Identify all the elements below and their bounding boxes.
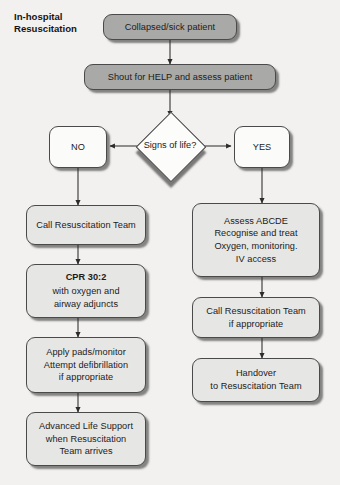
node-assess-abcde[interactable]: Assess ABCDE Recognise and treat Oxygen,… [192, 203, 320, 277]
node-cpr-30-2-line3: airway adjuncts [54, 298, 118, 311]
node-advanced-life-support[interactable]: Advanced Life Support when Resuscitation… [26, 412, 146, 466]
node-call-resuscitation-team-if-appropriate[interactable]: Call Resuscitation Team if appropriate [192, 297, 320, 338]
node-shout-for-help[interactable]: Shout for HELP and assess patient [84, 64, 276, 90]
node-assess-abcde-line1: Assess ABCDE [224, 215, 288, 228]
node-collapsed-sick-patient[interactable]: Collapsed/sick patient [103, 14, 237, 40]
node-cpr-30-2[interactable]: CPR 30:2 with oxygen and airway adjuncts [26, 264, 146, 318]
node-call-resuscitation-team[interactable]: Call Resuscitation Team [26, 205, 146, 245]
node-call-resuscitation-team-line1: Call Resuscitation Team [36, 219, 136, 232]
node-yes[interactable]: YES [234, 126, 290, 168]
node-apply-pads-monitor-line1: Apply pads/monitor [46, 346, 126, 359]
node-assess-abcde-line4: IV access [236, 253, 276, 266]
flowchart-canvas: In-hospital Resuscitation Collapsed/sick… [0, 0, 340, 485]
node-advanced-life-support-line1: Advanced Life Support [39, 420, 133, 433]
node-advanced-life-support-line3: Team arrives [59, 445, 112, 458]
node-signs-of-life-label: Signs of life? [144, 140, 197, 152]
node-no-label: NO [71, 141, 85, 154]
node-signs-of-life-line2: of life? [169, 140, 196, 150]
node-handover-line2: to Resuscitation Team [210, 380, 301, 393]
node-signs-of-life-decision[interactable]: Signs of life? [136, 112, 204, 180]
node-collapsed-sick-patient-line1: Collapsed/sick patient [125, 21, 215, 34]
node-yes-label: YES [253, 141, 272, 154]
node-cpr-30-2-line1: CPR 30:2 [66, 271, 107, 284]
node-no[interactable]: NO [49, 126, 107, 168]
node-shout-for-help-line1: Shout for HELP and assess patient [108, 71, 253, 84]
node-handover-line1: Handover [236, 367, 276, 380]
node-assess-abcde-line2: Recognise and treat [214, 227, 297, 240]
node-cpr-30-2-line2: with oxygen and [52, 285, 119, 298]
node-advanced-life-support-line2: when Resuscitation [46, 433, 127, 446]
node-apply-pads-monitor-line3: if appropriate [59, 371, 113, 384]
node-call-resuscitation-team-if-appropriate-line1: Call Resuscitation Team [206, 305, 306, 318]
node-handover-to-resuscitation-team[interactable]: Handover to Resuscitation Team [192, 358, 320, 402]
node-signs-of-life-line1: Signs [144, 140, 167, 150]
node-assess-abcde-line3: Oxygen, monitoring. [214, 240, 297, 253]
node-apply-pads-monitor[interactable]: Apply pads/monitor Attempt defibrillatio… [26, 337, 146, 393]
diagram-title: In-hospital Resuscitation [14, 11, 109, 36]
node-call-resuscitation-team-if-appropriate-line2: if appropriate [229, 318, 283, 331]
node-apply-pads-monitor-line2: Attempt defibrillation [44, 359, 128, 372]
